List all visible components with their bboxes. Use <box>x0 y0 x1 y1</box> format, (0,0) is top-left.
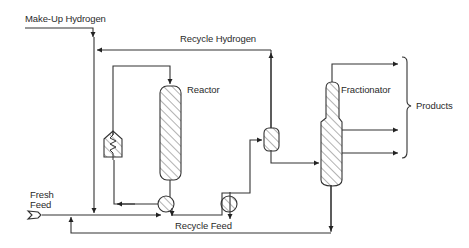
fresh-feed-inlet-icon <box>28 211 41 219</box>
furnace-icon <box>104 131 122 160</box>
products-label: Products <box>416 100 453 111</box>
heat-exchanger-icon <box>158 196 174 212</box>
separator-to-fractionator-line <box>271 150 319 163</box>
fresh-feed-label-line2: Feed <box>30 199 51 210</box>
reactor-vessel <box>160 86 181 180</box>
product-line-overhead <box>332 64 398 82</box>
makeup-hydrogen-line <box>25 28 93 37</box>
exchanger-to-furnace-line <box>114 160 158 204</box>
fractionator-column <box>321 82 342 186</box>
makeup-hydrogen-label: Make-Up Hydrogen <box>25 13 106 24</box>
recycle-hydrogen-line <box>97 50 271 128</box>
exchanger-to-cooler-line <box>172 140 262 215</box>
products-brace <box>402 57 411 158</box>
reactor-label: Reactor <box>187 84 220 95</box>
recycle-feed-label: Recycle Feed <box>175 220 232 231</box>
recycle-hydrogen-label: Recycle Hydrogen <box>180 33 256 44</box>
fractionator-label: Fractionator <box>341 84 391 95</box>
cooler-icon <box>221 196 237 212</box>
separator-vessel <box>264 128 279 151</box>
